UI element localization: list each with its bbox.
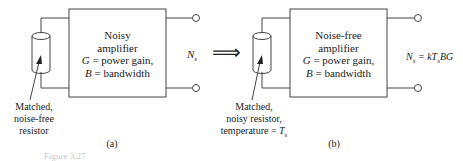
figure-caption: Figure 3.27 (44, 151, 86, 161)
resistor-label-a: Matched, noise-free resistor (4, 101, 64, 137)
resistor-cylinder-a (32, 33, 50, 74)
gain-line-a: G = power gain, (69, 54, 166, 67)
output-terminal-top-b (415, 15, 422, 22)
bandwidth-line-b: B = bandwidth (290, 67, 387, 80)
panel-label-b: (b) (322, 138, 346, 150)
output-terminal-bottom-b (415, 85, 422, 92)
bandwidth-line-a: B = bandwidth (69, 67, 166, 80)
output-terminal-top-a (193, 15, 200, 22)
amp-title-a: Noisy (69, 29, 166, 42)
amplifier-label-a: Noisy amplifier G = power gain, B = band… (69, 29, 166, 79)
resistor-cylinder-b (253, 33, 271, 74)
panel-label-a: (a) (100, 138, 124, 150)
output-terminal-bottom-a (193, 85, 200, 92)
amp-subtitle-b: amplifier (290, 42, 387, 55)
implies-arrow-icon: ⟹ (212, 42, 241, 62)
amp-subtitle-a: amplifier (69, 42, 166, 55)
amplifier-label-b: Noise-free amplifier G = power gain, B =… (290, 29, 387, 79)
gain-line-b: G = power gain, (290, 54, 387, 67)
output-noise-label-a: Ns (187, 48, 197, 66)
resistor-label-b: Matched, noisy resistor, temperature = T… (214, 101, 294, 141)
amp-title-b: Noise-free (290, 29, 387, 42)
output-noise-formula-b: Ns = kTsBG (406, 51, 453, 68)
